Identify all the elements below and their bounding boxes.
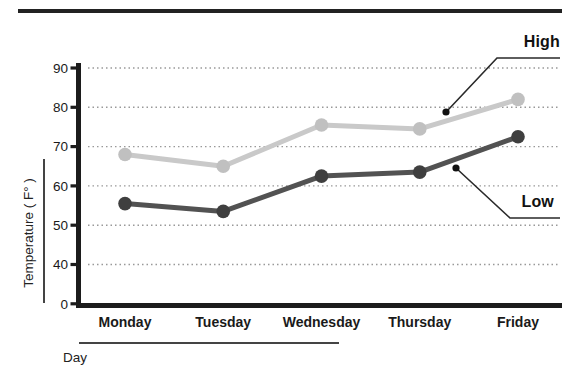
x-axis-title: Day [63, 350, 87, 365]
y-tick-label-80: 80 [53, 100, 68, 115]
series-label-low: Low [510, 193, 554, 211]
y-tick-label-0: 0 [60, 297, 68, 312]
y-tick-label-60: 60 [53, 179, 68, 194]
x-category-label-thursday: Thursday [388, 314, 451, 330]
x-category-label-monday: Monday [99, 314, 152, 330]
y-tick-label-70: 70 [53, 139, 68, 154]
series-point-high-monday [118, 148, 132, 162]
series-point-low-thursday [413, 165, 427, 179]
x-category-label-tuesday: Tuesday [195, 314, 251, 330]
high-callout-dot [442, 108, 449, 115]
series-point-high-tuesday [216, 160, 230, 174]
temperature-line-chart: 9080706050400MondayTuesdayWednesdayThurs… [0, 0, 587, 380]
series-point-low-wednesday [315, 169, 329, 183]
series-point-high-friday [511, 93, 525, 107]
y-tick-label-90: 90 [53, 61, 68, 76]
y-axis-title-rule [43, 159, 45, 303]
y-tick-label-50: 50 [53, 218, 68, 233]
series-point-low-monday [118, 197, 132, 211]
x-category-label-friday: Friday [497, 314, 539, 330]
x-category-label-wednesday: Wednesday [283, 314, 361, 330]
series-point-high-thursday [413, 122, 427, 136]
x-axis-title-rule [79, 342, 339, 344]
chart-plot-area: 9080706050400MondayTuesdayWednesdayThurs… [0, 0, 587, 380]
y-axis-title: Temperature ( F° ) [21, 158, 36, 308]
low-callout-dot [452, 164, 459, 171]
y-tick-label-40: 40 [53, 257, 68, 272]
series-point-high-wednesday [315, 118, 329, 132]
series-point-low-tuesday [216, 205, 230, 219]
series-point-low-friday [511, 130, 525, 144]
series-label-high: High [512, 33, 560, 51]
